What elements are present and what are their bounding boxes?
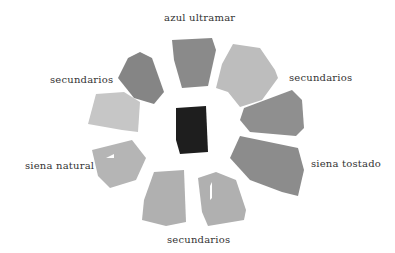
- swatch-top: [172, 38, 216, 88]
- label-azul-ultramar: azul ultramar: [164, 12, 235, 23]
- label-siena-tostado: siena tostado: [311, 158, 381, 169]
- swatch-center: [176, 106, 208, 154]
- swatches-graphic: [0, 0, 395, 253]
- swatch-left-upper: [88, 92, 140, 132]
- color-wheel-illustration: azul ultramar secundarios secundarios si…: [0, 0, 395, 253]
- label-secundarios-upper-left: secundarios: [50, 74, 113, 85]
- label-siena-natural: siena natural: [25, 160, 94, 171]
- label-secundarios-upper-right: secundarios: [289, 72, 352, 83]
- swatch-upper-right: [216, 44, 278, 107]
- swatch-bottom-left: [142, 170, 186, 226]
- swatch-bottom-right: [198, 172, 246, 226]
- label-secundarios-bottom: secundarios: [167, 234, 230, 245]
- swatch-left-lower: [92, 140, 146, 188]
- swatch-right-lower: [230, 136, 304, 196]
